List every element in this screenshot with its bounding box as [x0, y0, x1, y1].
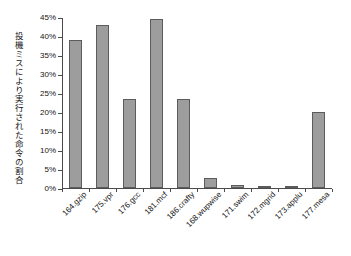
x-axis-category-label: 164.gzip [39, 190, 88, 239]
y-axis-tick-label: 45% [4, 13, 56, 23]
y-axis-tick-mark [58, 113, 62, 114]
bar [258, 186, 271, 188]
y-axis-tick-label: 5% [4, 165, 56, 175]
bar [177, 99, 190, 188]
bar [69, 40, 82, 188]
y-axis-tick-mark [58, 170, 62, 171]
y-axis-tick-mark [58, 75, 62, 76]
y-axis-tick-label: 35% [4, 51, 56, 61]
y-axis-tick-mark [58, 94, 62, 95]
bar-chart: 投機ミスにより実行された命令の割合 0%5%10%15%20%25%30%35%… [0, 0, 351, 256]
y-axis-tick-label: 0% [4, 184, 56, 194]
plot-area: 0%5%10%15%20%25%30%35%40%45% [62, 18, 332, 189]
bar [285, 186, 298, 188]
y-axis-tick-mark [58, 151, 62, 152]
y-axis-line [62, 18, 63, 189]
bar [123, 99, 136, 188]
y-axis-tick-label: 25% [4, 89, 56, 99]
y-axis-tick-label: 40% [4, 32, 56, 42]
bar [96, 25, 109, 188]
bar [312, 112, 325, 188]
bar [150, 19, 163, 188]
y-axis-tick-label: 10% [4, 146, 56, 156]
y-axis-tick-label: 20% [4, 108, 56, 118]
y-axis-tick-label: 30% [4, 70, 56, 80]
y-axis-tick-mark [58, 37, 62, 38]
x-axis-labels: 164.gzip175.vpr176.gcc181.mcf186.crafty1… [62, 190, 351, 256]
y-axis-tick-mark [58, 56, 62, 57]
bar [231, 185, 244, 188]
y-axis-tick-label: 15% [4, 127, 56, 137]
y-axis-tick-mark [58, 132, 62, 133]
bar [204, 178, 217, 188]
y-axis-tick-mark [58, 18, 62, 19]
